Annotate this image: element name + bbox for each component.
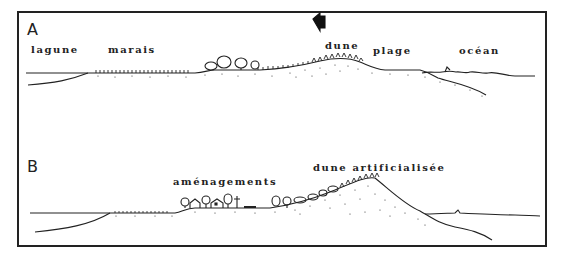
- cross-section-drawing: [0, 0, 562, 260]
- wind-arrow-icon: [313, 13, 325, 31]
- amenagements-buildings-icon: [181, 186, 338, 208]
